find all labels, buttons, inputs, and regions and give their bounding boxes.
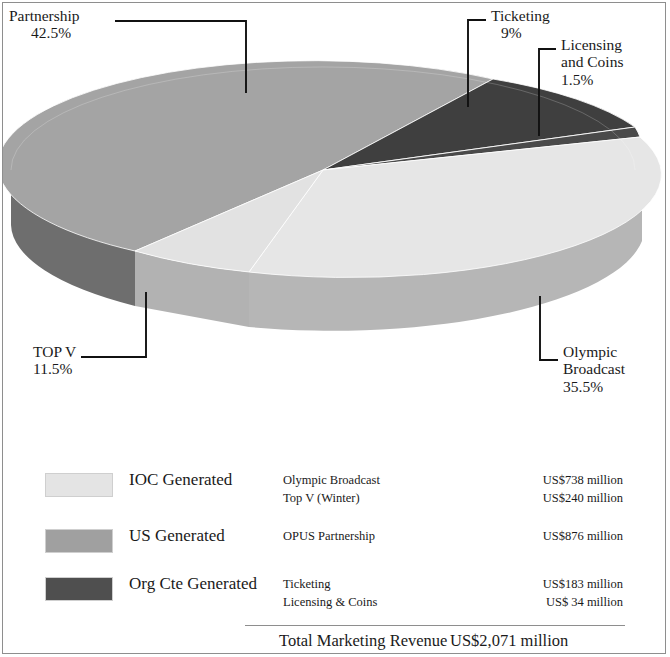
callout-topv-percent: 11.5% xyxy=(33,360,76,377)
legend-details-ioc: Olympic Broadcast US$738 million Top V (… xyxy=(283,471,623,507)
legend-swatch-orgcte xyxy=(45,577,113,601)
total-label: Total Marketing Revenue xyxy=(279,631,447,651)
legend-row-orgcte: Org Cte Generated Ticketing US$183 milli… xyxy=(45,573,625,617)
callout-olympic-label2: Broadcast xyxy=(563,360,625,377)
callout-partnership: Partnership 42.5% xyxy=(9,7,80,42)
detail-line: Ticketing US$183 million xyxy=(283,575,623,593)
detail-name: Licensing & Coins xyxy=(283,593,377,611)
callout-topv: TOP V 11.5% xyxy=(33,343,76,378)
detail-value: US$240 million xyxy=(543,489,623,507)
detail-name: Ticketing xyxy=(283,575,330,593)
detail-name: Top V (Winter) xyxy=(283,489,360,507)
legend-label-ioc: IOC Generated xyxy=(129,470,232,490)
callout-licensing-label2: and Coins xyxy=(561,53,623,70)
callout-licensing-percent: 1.5% xyxy=(561,71,623,88)
legend-label-orgcte: Org Cte Generated xyxy=(129,574,257,594)
detail-name: Olympic Broadcast xyxy=(283,471,380,489)
legend-row-ioc: IOC Generated Olympic Broadcast US$738 m… xyxy=(45,469,625,513)
leader-line-olympic xyxy=(540,296,558,360)
callout-olympic-label: Olympic xyxy=(563,343,617,360)
legend-swatch-us xyxy=(45,529,113,553)
legend-details-us: OPUS Partnership US$876 million xyxy=(283,527,623,545)
detail-line: Top V (Winter) US$240 million xyxy=(283,489,623,507)
total-divider-top xyxy=(245,625,625,626)
detail-line: Licensing & Coins US$ 34 million xyxy=(283,593,623,611)
legend-label-us: US Generated xyxy=(129,526,225,546)
detail-value: US$738 million xyxy=(543,471,623,489)
legend-details-orgcte: Ticketing US$183 million Licensing & Coi… xyxy=(283,575,623,611)
callout-partnership-label: Partnership xyxy=(9,7,80,24)
legend-row-us: US Generated OPUS Partnership US$876 mil… xyxy=(45,525,625,569)
callout-ticketing: Ticketing 9% xyxy=(491,7,550,42)
detail-line: Olympic Broadcast US$738 million xyxy=(283,471,623,489)
pie-chart-area: Partnership 42.5% Ticketing 9% Licensing… xyxy=(3,3,667,433)
callout-olympic: Olympic Broadcast 35.5% xyxy=(563,343,625,395)
callout-ticketing-label: Ticketing xyxy=(491,7,550,24)
legend-swatch-ioc xyxy=(45,473,113,497)
legend-block: IOC Generated Olympic Broadcast US$738 m… xyxy=(3,433,667,655)
chart-frame: Partnership 42.5% Ticketing 9% Licensing… xyxy=(2,2,666,654)
detail-value: US$ 34 million xyxy=(546,593,623,611)
callout-licensing-label: Licensing xyxy=(561,36,622,53)
detail-value: US$183 million xyxy=(543,575,623,593)
callout-topv-label: TOP V xyxy=(33,343,76,360)
callout-ticketing-percent: 9% xyxy=(501,24,550,41)
detail-name: OPUS Partnership xyxy=(283,527,375,545)
detail-value: US$876 million xyxy=(543,527,623,545)
callout-olympic-percent: 35.5% xyxy=(563,378,625,395)
callout-partnership-percent: 42.5% xyxy=(31,24,80,41)
callout-licensing: Licensing and Coins 1.5% xyxy=(561,36,623,88)
total-value: US$2,071 million xyxy=(450,631,568,651)
detail-line: OPUS Partnership US$876 million xyxy=(283,527,623,545)
